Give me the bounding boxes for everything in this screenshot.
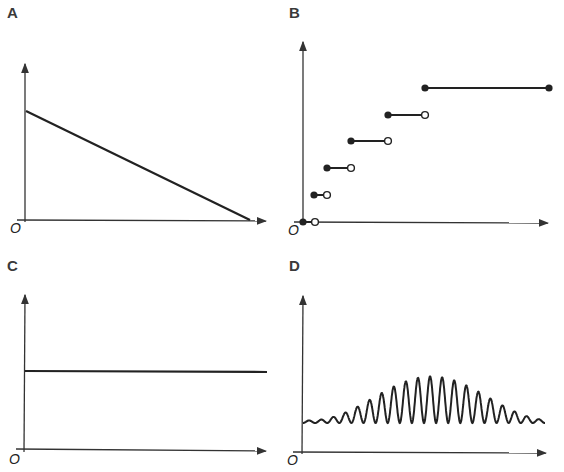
panel-c: O [9, 295, 267, 467]
panel-b-origin: O [288, 222, 299, 238]
figure-canvas: O O [0, 0, 564, 472]
panel-c-x-axis [16, 449, 266, 451]
panel-a-curve [26, 111, 250, 220]
panel-d: O [287, 296, 546, 468]
panel-b-filled-points [299, 84, 552, 225]
panel-a-origin: O [10, 220, 21, 236]
panel-d-x-axis [293, 452, 546, 453]
panel-c-origin: O [9, 451, 20, 467]
panel-b-x-axis [294, 222, 548, 223]
panel-c-y-axis [24, 295, 25, 452]
panel-c-curve [25, 371, 267, 372]
panel-d-y-axis [302, 296, 303, 454]
panel-b: O [288, 42, 553, 238]
panel-a-x-axis [17, 220, 266, 221]
panel-b-steps [303, 88, 549, 222]
panel-a: O [10, 64, 266, 236]
panel-d-origin: O [287, 452, 298, 468]
panel-d-curve [303, 377, 545, 423]
